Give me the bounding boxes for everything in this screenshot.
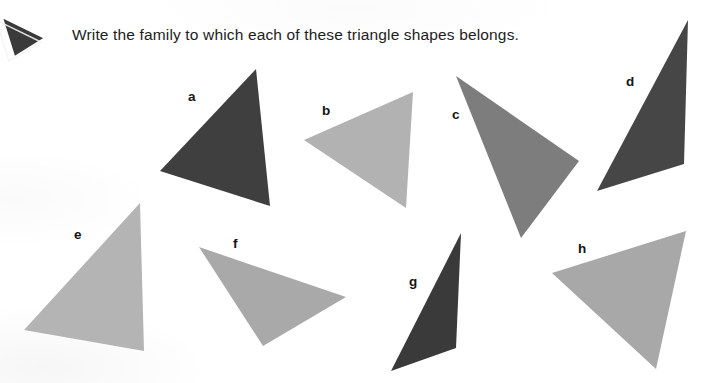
- shape-label-a: a: [188, 90, 196, 104]
- triangle-e[interactable]: [24, 203, 144, 351]
- shape-label-f: f: [233, 237, 238, 251]
- shape-label-d: d: [626, 75, 634, 89]
- triangle-g[interactable]: [391, 233, 461, 371]
- shape-label-b: b: [322, 104, 330, 118]
- triangle-shapes-layer: [0, 0, 705, 383]
- triangle-a[interactable]: [160, 69, 270, 206]
- triangle-c[interactable]: [456, 76, 579, 238]
- shape-label-e: e: [74, 228, 82, 242]
- worksheet-page: Write the family to which each of these …: [0, 0, 705, 383]
- triangle-f[interactable]: [199, 247, 346, 346]
- triangle-b[interactable]: [304, 92, 413, 208]
- shape-label-c: c: [452, 108, 460, 122]
- shape-label-g: g: [409, 275, 417, 289]
- triangle-h[interactable]: [552, 231, 686, 369]
- shape-label-h: h: [578, 242, 586, 256]
- triangle-d[interactable]: [597, 20, 688, 191]
